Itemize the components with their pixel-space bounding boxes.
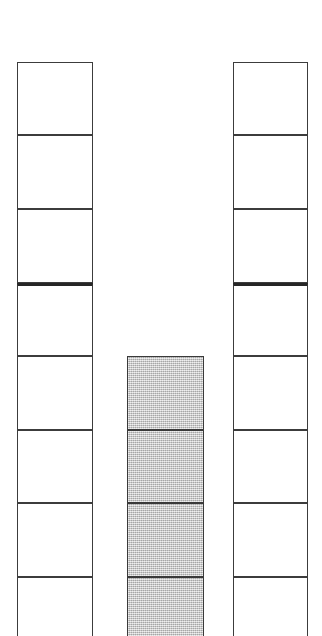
cell-left-column-6 <box>17 430 93 503</box>
cell-left-column-7 <box>17 503 93 577</box>
cell-right-column-7 <box>233 503 308 577</box>
cell-left-column-2 <box>17 135 93 209</box>
cell-middle-column-2 <box>127 430 204 503</box>
column-right-column <box>233 0 308 636</box>
cell-left-column-3 <box>17 209 93 283</box>
cell-middle-column-3 <box>127 503 204 577</box>
cell-left-column-4 <box>17 283 93 356</box>
cell-right-column-5 <box>233 356 308 430</box>
cell-right-column-1 <box>233 62 308 135</box>
cell-left-column-1 <box>17 62 93 135</box>
column-left-column <box>17 0 93 636</box>
cell-left-column-8 <box>17 577 93 636</box>
cell-middle-column-1 <box>127 356 204 430</box>
cell-right-column-2 <box>233 135 308 209</box>
cell-left-column-5 <box>17 356 93 430</box>
stacked-column-diagram <box>0 0 322 636</box>
cell-right-column-6 <box>233 430 308 503</box>
cell-right-column-4 <box>233 283 308 356</box>
column-middle-column <box>127 0 204 636</box>
cell-right-column-8 <box>233 577 308 636</box>
cell-right-column-3 <box>233 209 308 283</box>
cell-middle-column-4 <box>127 577 204 636</box>
